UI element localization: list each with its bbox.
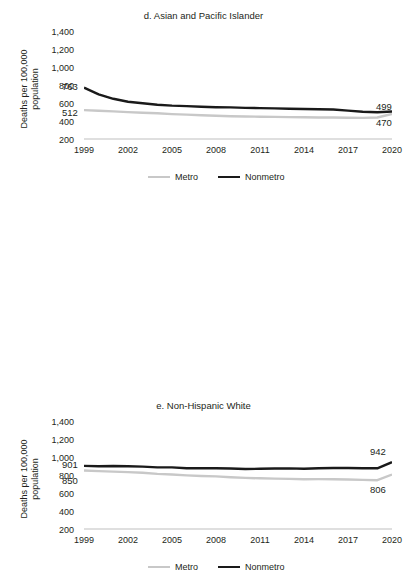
data-label-nonmetro-end-d: 499 xyxy=(376,101,392,112)
y-tick-e-1200: 1,200 xyxy=(38,435,74,445)
x-tick-d-2014: 2014 xyxy=(287,145,321,155)
series-line-nonmetro-e xyxy=(84,462,392,469)
x-tick-d-2017: 2017 xyxy=(331,145,365,155)
chart-panel-asian-pacific-islander: d. Asian and Pacific Islander Deaths per… xyxy=(0,0,407,195)
legend-label-metro-e: Metro xyxy=(175,562,198,572)
legend-item-metro-d[interactable]: Metro xyxy=(148,172,198,182)
x-tick-d-2005: 2005 xyxy=(155,145,189,155)
series-line-nonmetro-d xyxy=(84,88,392,113)
legend-swatch-nonmetro-icon xyxy=(218,176,240,178)
x-tick-e-2011: 2011 xyxy=(243,535,277,545)
y-tick-d-1200: 1,200 xyxy=(38,45,74,55)
data-label-metro-start-d: 512 xyxy=(62,107,78,118)
legend-swatch-metro-icon xyxy=(148,176,170,178)
series-line-metro-e xyxy=(84,471,392,481)
legend-item-nonmetro-d[interactable]: Nonmetro xyxy=(218,172,285,182)
legend-swatch-metro-icon xyxy=(148,566,170,568)
x-tick-e-1999: 1999 xyxy=(67,535,101,545)
x-tick-e-2008: 2008 xyxy=(199,535,233,545)
plot-svg-e xyxy=(84,421,392,533)
legend-swatch-nonmetro-icon xyxy=(218,566,240,568)
x-tick-e-2020: 2020 xyxy=(375,535,407,545)
data-label-metro-end-d: 470 xyxy=(376,117,392,128)
y-tick-e-200: 200 xyxy=(38,525,74,535)
panel-title-e: e. Non-Hispanic White xyxy=(0,400,407,411)
legend-label-nonmetro-e: Nonmetro xyxy=(245,562,285,572)
y-tick-e-1400: 1,400 xyxy=(38,417,74,427)
panel-title-d: d. Asian and Pacific Islander xyxy=(0,10,407,21)
x-tick-d-2011: 2011 xyxy=(243,145,277,155)
data-label-metro-start-e: 850 xyxy=(62,475,78,486)
x-tick-e-2017: 2017 xyxy=(331,535,365,545)
plot-svg-d xyxy=(84,31,392,143)
plot-area-e xyxy=(84,421,392,533)
y-tick-e-600: 600 xyxy=(38,489,74,499)
legend-item-metro-e[interactable]: Metro xyxy=(148,562,198,572)
x-tick-e-2002: 2002 xyxy=(111,535,145,545)
data-label-nonmetro-start-e: 901 xyxy=(62,459,78,470)
x-tick-d-2002: 2002 xyxy=(111,145,145,155)
x-tick-e-2005: 2005 xyxy=(155,535,189,545)
data-label-nonmetro-start-d: 763 xyxy=(62,81,78,92)
y-tick-d-1000: 1,000 xyxy=(38,63,74,73)
y-tick-d-400: 400 xyxy=(38,117,74,127)
legend-item-nonmetro-e[interactable]: Nonmetro xyxy=(218,562,285,572)
legend-label-metro-d: Metro xyxy=(175,172,198,182)
x-tick-d-2020: 2020 xyxy=(375,145,407,155)
x-tick-d-1999: 1999 xyxy=(67,145,101,155)
data-label-metro-end-e: 806 xyxy=(370,484,386,495)
y-tick-d-1400: 1,400 xyxy=(38,27,74,37)
y-tick-d-200: 200 xyxy=(38,135,74,145)
plot-area-d xyxy=(84,31,392,143)
data-label-nonmetro-end-e: 942 xyxy=(370,446,386,457)
y-tick-e-400: 400 xyxy=(38,507,74,517)
legend-label-nonmetro-d: Nonmetro xyxy=(245,172,285,182)
x-tick-d-2008: 2008 xyxy=(199,145,233,155)
x-tick-e-2014: 2014 xyxy=(287,535,321,545)
chart-panel-non-hispanic-white: e. Non-Hispanic White Deaths per 100,000… xyxy=(0,390,407,574)
